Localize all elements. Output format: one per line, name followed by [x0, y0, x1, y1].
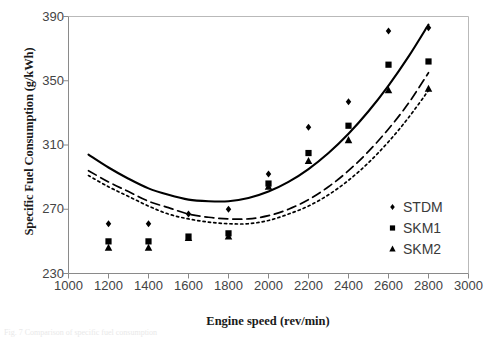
data-point-stdm [306, 124, 311, 131]
figure-caption: Fig. 7 Comparison of specific fuel consu… [4, 328, 474, 337]
diamond-marker-icon [386, 200, 399, 213]
x-tick-label: 2400 [327, 279, 371, 292]
data-point-skm1 [305, 150, 311, 156]
x-tick-label: 2800 [407, 279, 451, 292]
data-point-stdm [386, 27, 391, 34]
fit-curve-skm2 [89, 90, 429, 224]
fit-curves [89, 25, 429, 224]
data-point-skm2 [105, 244, 113, 251]
legend-item-skm1: SKM1 [386, 217, 466, 238]
fit-curve-skm1 [89, 73, 429, 219]
legend-item-skm2: SKM2 [386, 238, 466, 259]
data-point-skm1 [145, 238, 151, 244]
x-tick-label: 3000 [447, 279, 491, 292]
data-point-stdm [186, 211, 191, 218]
data-point-stdm [226, 206, 231, 213]
data-point-stdm [426, 24, 431, 31]
legend-label: STDM [399, 200, 443, 214]
legend-label: SKM2 [399, 242, 441, 256]
data-point-skm1 [385, 62, 391, 68]
data-point-stdm [106, 220, 111, 227]
chart-legend: STDMSKM1SKM2 [386, 196, 466, 259]
legend-item-stdm: STDM [386, 196, 466, 217]
data-markers [105, 24, 433, 251]
figure-container: 230270310350390 100012001400160018002000… [0, 0, 493, 337]
data-point-skm1 [105, 238, 111, 244]
x-tick-label: 1600 [167, 279, 211, 292]
y-axis-ticks [64, 17, 69, 274]
data-point-skm1 [425, 58, 431, 64]
x-tick-label: 2600 [367, 279, 411, 292]
data-point-skm1 [345, 123, 351, 129]
data-point-skm2 [425, 85, 433, 92]
x-axis-tick-labels: 1000120014001600180020002200240026002800… [0, 279, 493, 297]
x-tick-label: 1400 [127, 279, 171, 292]
x-tick-label: 1200 [87, 279, 131, 292]
fit-curve-stdm [89, 25, 429, 202]
x-tick-label: 1000 [47, 279, 91, 292]
x-tick-label: 1800 [207, 279, 251, 292]
y-axis-title: Specific Fuel Consumption (g/kWh) [22, 17, 37, 267]
legend-label: SKM1 [399, 221, 441, 235]
x-tick-label: 2000 [247, 279, 291, 292]
data-point-skm2 [305, 157, 313, 164]
square-marker-icon [386, 221, 399, 234]
data-point-stdm [266, 170, 271, 177]
x-tick-label: 2200 [287, 279, 331, 292]
data-point-skm2 [145, 244, 153, 251]
x-axis-title: Engine speed (rev/min) [68, 314, 468, 329]
data-point-stdm [146, 220, 151, 227]
data-point-stdm [346, 98, 351, 105]
triangle-marker-icon [386, 242, 399, 255]
